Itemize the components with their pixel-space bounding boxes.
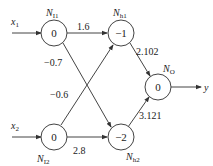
node-label-NI1: NI1 [45, 7, 59, 20]
node-label-Nh1: Nh1 [112, 7, 127, 20]
weight-NI1-Nh1: 1.6 [77, 21, 90, 32]
weight-NI2-Nh2: 2.8 [73, 145, 86, 156]
node-value: −1 [115, 27, 127, 39]
input-label-x1: x1 [10, 16, 19, 29]
input-label-x2: x2 [10, 120, 19, 133]
node-NO: 0 [145, 74, 171, 100]
node-label-NO: NO [162, 63, 175, 76]
node-label-NI2: NI2 [36, 153, 50, 166]
weight-Nh2-NO: 3.121 [139, 110, 162, 121]
output-label-y: y [203, 82, 209, 93]
node-label-Nh2: Nh2 [125, 151, 140, 164]
node-value: −2 [115, 131, 127, 143]
node-value: 0 [51, 27, 57, 39]
weight-Nh1-NO: 2.102 [136, 46, 159, 57]
node-Nh2: −2 [108, 124, 134, 150]
node-value: 0 [155, 81, 161, 93]
weight-NI1-Nh2: −0.7 [44, 57, 62, 68]
node-NI1: 0 [41, 20, 67, 46]
node-NI2: 0 [41, 124, 67, 150]
neural-network-diagram: 0 0 −1 −2 0 NI1 NI2 Nh1 Nh2 NO x1 x2 y 1… [0, 0, 213, 166]
node-Nh1: −1 [108, 20, 134, 46]
edge-NI2-Nh1 [61, 45, 113, 125]
node-value: 0 [51, 131, 57, 143]
weight-NI2-Nh1: −0.6 [50, 89, 68, 100]
